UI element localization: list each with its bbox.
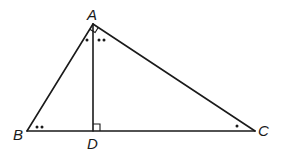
label-d: D bbox=[87, 135, 98, 152]
triangle-diagram: A B C D bbox=[0, 0, 283, 152]
angle-mark-c bbox=[236, 125, 239, 128]
segment-ab bbox=[27, 24, 93, 131]
angle-mark-b bbox=[36, 126, 44, 129]
label-b: B bbox=[13, 126, 23, 143]
label-c: C bbox=[258, 122, 269, 139]
angle-mark-dac bbox=[98, 39, 106, 42]
right-angle-mark-d bbox=[93, 124, 100, 131]
angle-mark-bad bbox=[86, 39, 89, 42]
segment-ac bbox=[93, 24, 255, 131]
label-a: A bbox=[86, 6, 97, 23]
